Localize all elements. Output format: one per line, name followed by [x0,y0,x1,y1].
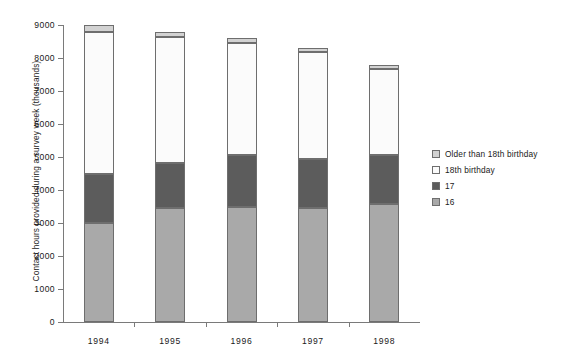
legend-swatch-17 [432,182,440,190]
x-axis-label: 1995 [155,336,185,346]
legend-swatch-older-than-18th-birthday [432,150,440,158]
bar-segment-older-than-18th-birthday [155,32,185,37]
plot-area: 0100020003000400050006000700080009000199… [63,25,420,322]
y-axis-tick-label: 9000 [34,20,55,30]
y-axis-tick-label: 4000 [34,185,55,195]
bar-segment-older-than-18th-birthday [227,38,257,43]
y-axis-tick [58,25,63,26]
y-axis-tick [58,289,63,290]
bar-segment-older-than-18th-birthday [369,65,399,69]
legend-label: 17 [445,181,455,191]
x-axis-tick [206,322,207,327]
bar-1994: 1994 [84,25,114,322]
bar-1995: 1995 [155,25,185,322]
bar-segment-18th-birthday [298,52,328,159]
legend-item: 18th birthday [432,163,567,177]
bar-segment-17 [155,163,185,209]
chart-legend: Older than 18th birthday 18th birthday 1… [432,147,567,211]
bar-segment-18th-birthday [84,32,114,174]
legend-swatch-16 [432,198,440,206]
bar-segment-17 [84,174,114,224]
x-axis-tick [134,322,135,327]
legend-label: 18th birthday [445,165,495,175]
x-axis-tick [349,322,350,327]
bar-segment-18th-birthday [227,43,257,155]
bar-segment-16 [84,223,114,322]
y-axis-tick [58,157,63,158]
bar-1997: 1997 [298,25,328,322]
bar-segment-16 [298,208,328,322]
x-axis-label: 1998 [369,336,399,346]
legend-swatch-18th-birthday [432,166,440,174]
bar-segment-16 [155,208,185,322]
bar-segment-17 [227,155,257,206]
y-axis-tick [58,58,63,59]
legend-item: 17 [432,179,567,193]
x-axis-tick [277,322,278,327]
y-axis-tick [58,223,63,224]
bar-segment-18th-birthday [369,69,399,156]
bar-segment-16 [369,204,399,322]
y-axis-tick-label: 5000 [34,152,55,162]
legend-item: 16 [432,195,567,209]
bar-segment-older-than-18th-birthday [298,48,328,52]
bar-segment-17 [369,155,399,204]
y-axis-tick-label: 3000 [34,218,55,228]
y-axis-tick-label: 6000 [34,119,55,129]
legend-label: 16 [445,197,455,207]
y-axis-tick [58,124,63,125]
legend-label: Older than 18th birthday [445,149,538,159]
y-axis-tick-label: 1000 [34,284,55,294]
x-axis-label: 1994 [84,336,114,346]
stacked-bar-chart: Contact hours provided during a survey w… [0,0,569,363]
y-axis-tick [58,256,63,257]
bar-segment-18th-birthday [155,37,185,163]
y-axis-tick [58,190,63,191]
x-axis-line [63,322,420,323]
y-axis-tick-label: 7000 [34,86,55,96]
bar-segment-16 [227,207,257,323]
bar-segment-older-than-18th-birthday [84,25,114,32]
y-axis-tick-label: 0 [50,317,55,327]
y-axis-tick [58,91,63,92]
bar-1996: 1996 [227,25,257,322]
y-axis-tick-label: 2000 [34,251,55,261]
bar-segment-17 [298,159,328,209]
bar-1998: 1998 [369,25,399,322]
y-axis-tick [58,322,63,323]
y-axis-tick-label: 8000 [34,53,55,63]
x-axis-label: 1996 [227,336,257,346]
legend-item: Older than 18th birthday [432,147,567,161]
x-axis-label: 1997 [298,336,328,346]
y-axis-title: Contact hours provided during a survey w… [31,31,41,311]
y-axis-line [63,25,64,322]
